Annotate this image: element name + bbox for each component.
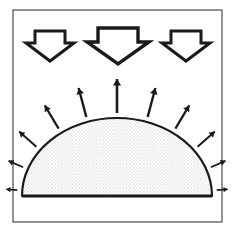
down-arrows-group: [26, 28, 210, 64]
diagram-canvas: [0, 0, 236, 232]
figure-root: Schematic diagram: three hollow block ar…: [0, 0, 236, 232]
